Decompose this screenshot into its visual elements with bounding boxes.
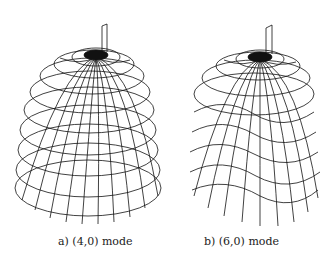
panel-6-0-mode: b) (6,0) mode [164,0,328,270]
wireframe-shell-4-0-mode [0,0,164,235]
caption-a: a) (4,0) mode [58,235,133,248]
wireframe-shell-6-0-mode [164,0,328,235]
caption-b: b) (6,0) mode [204,235,279,248]
panel-4-0-mode: a) (4,0) mode [0,0,164,270]
